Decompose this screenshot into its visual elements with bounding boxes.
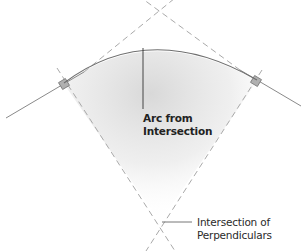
arc-label-line2: Intersection xyxy=(143,125,212,138)
arc-label: Arc from Intersection xyxy=(143,112,212,138)
perp-label-line1: Intersection of xyxy=(197,216,272,229)
arc-label-line1: Arc from xyxy=(143,112,212,125)
perp-label-line2: Perpendiculars xyxy=(197,229,272,242)
perpendiculars-label: Intersection of Perpendiculars xyxy=(197,216,272,242)
